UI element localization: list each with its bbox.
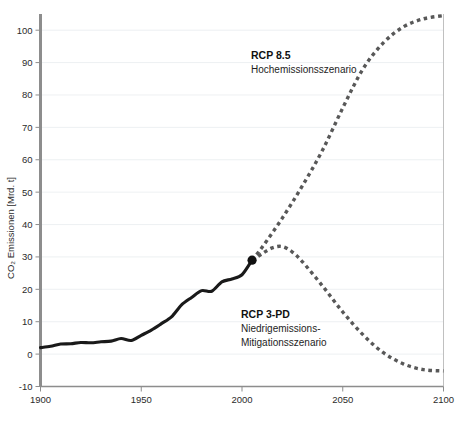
y-tick-label: 30	[22, 251, 33, 262]
historical-projection-junction-marker	[247, 256, 256, 265]
y-tick-label: 60	[22, 154, 33, 165]
gridlines-group	[41, 30, 444, 354]
y-tick-label: 40	[22, 219, 33, 230]
y-tick-labels-group: -100102030405060708090100	[17, 25, 33, 392]
y-tick-label: 90	[22, 57, 33, 68]
x-tick-label: 2050	[332, 394, 353, 405]
tickmarks-group	[36, 30, 444, 391]
annotation-rcp3pd-subtitle-line1: Niedrigemissions-	[241, 323, 320, 334]
y-tick-label: -10	[19, 381, 33, 392]
y-tick-label: 10	[22, 316, 33, 327]
y-axis-title: CO₂ Emissionen [Mrd. t]	[5, 177, 16, 279]
co2-emissions-chart: -100102030405060708090100 19001950200020…	[0, 0, 466, 423]
x-tick-label: 2100	[433, 394, 454, 405]
x-tick-label: 2000	[231, 394, 252, 405]
y-tick-label: 0	[27, 349, 32, 360]
y-tick-label: 20	[22, 284, 33, 295]
y-tick-label: 50	[22, 187, 33, 198]
series-line-historical	[41, 260, 253, 347]
annotation-rcp85-title: RCP 8.5	[251, 49, 291, 61]
annotation-rcp85-subtitle: Hochemissionsszenario	[251, 64, 357, 75]
y-tick-label: 80	[22, 89, 33, 100]
x-tick-labels-group: 19001950200020502100	[30, 394, 454, 405]
y-tick-label: 70	[22, 122, 33, 133]
x-tick-label: 1900	[30, 394, 51, 405]
annotation-rcp3pd-title: RCP 3-PD	[241, 308, 290, 320]
chart-svg: -100102030405060708090100 19001950200020…	[0, 0, 466, 423]
x-tick-label: 1950	[131, 394, 152, 405]
y-tick-label: 100	[17, 25, 33, 36]
annotation-rcp3pd-subtitle-line2: Mitigationsszenario	[241, 337, 327, 348]
